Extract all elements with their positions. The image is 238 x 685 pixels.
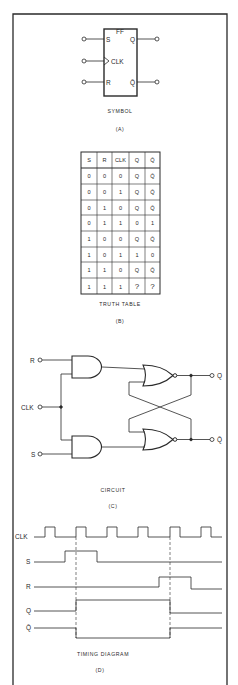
svg-text:0: 0 bbox=[135, 220, 138, 226]
input-terminal-s bbox=[38, 452, 42, 456]
timing-label-clk: CLK bbox=[15, 533, 28, 540]
svg-text:?: ? bbox=[150, 282, 155, 291]
flip-flop-figure: FF S CLK R Q Q̄ SYMBOL (A) S R CLK Q Q̄ … bbox=[0, 0, 238, 685]
ff-label: FF bbox=[116, 28, 124, 35]
timing-label-q: Q bbox=[26, 607, 31, 615]
symbol-letter: (A) bbox=[116, 126, 125, 132]
svg-text:1: 1 bbox=[87, 252, 90, 258]
feedback-wire-b bbox=[129, 376, 191, 433]
circuit-label-r: R bbox=[30, 357, 35, 364]
svg-text:0: 0 bbox=[87, 220, 90, 226]
svg-text:Q̄: Q̄ bbox=[150, 173, 155, 179]
timing-label-qbar: Q̄ bbox=[26, 624, 31, 632]
pin-label-clk: CLK bbox=[111, 58, 124, 65]
timing-label-s: S bbox=[26, 558, 31, 565]
figure-frame bbox=[13, 14, 227, 685]
svg-text:Q: Q bbox=[135, 173, 140, 179]
input-terminal-r bbox=[38, 358, 42, 362]
svg-text:1: 1 bbox=[103, 284, 106, 290]
clock-triangle-icon bbox=[104, 57, 109, 65]
pin-label-qbar: Q̄ bbox=[130, 79, 135, 87]
circuit-caption: CIRCUIT bbox=[100, 487, 125, 493]
input-terminal-s bbox=[82, 37, 86, 41]
circuit-label-clk: CLK bbox=[21, 404, 34, 411]
svg-text:1: 1 bbox=[87, 267, 90, 273]
q-waveform bbox=[34, 600, 222, 613]
nor-bubble-top bbox=[173, 374, 177, 378]
svg-text:S: S bbox=[87, 157, 91, 163]
truth-table-caption: TRUTH TABLE bbox=[99, 301, 141, 307]
nor-bubble-bottom bbox=[173, 438, 177, 442]
svg-text:Q: Q bbox=[135, 236, 140, 242]
svg-text:0: 0 bbox=[87, 173, 90, 179]
svg-text:Q: Q bbox=[135, 157, 140, 163]
svg-text:1: 1 bbox=[87, 236, 90, 242]
output-terminal-q bbox=[155, 37, 159, 41]
qbar-waveform bbox=[34, 628, 222, 638]
output-terminal-qbar bbox=[210, 438, 214, 442]
input-terminal-clk bbox=[82, 59, 86, 63]
svg-text:Q̄: Q̄ bbox=[150, 236, 155, 242]
input-terminal-r bbox=[82, 80, 86, 84]
svg-text:Q̄: Q̄ bbox=[150, 189, 155, 195]
svg-text:Q̄: Q̄ bbox=[150, 157, 155, 163]
svg-text:0: 0 bbox=[151, 252, 154, 258]
circuit-diagram bbox=[38, 356, 214, 458]
svg-text:?: ? bbox=[135, 282, 140, 291]
circuit-label-qbar: Q̄ bbox=[217, 436, 222, 444]
output-terminal-q bbox=[210, 374, 214, 378]
and-gate-bottom bbox=[72, 436, 102, 458]
svg-text:0: 0 bbox=[87, 205, 90, 211]
r-waveform bbox=[34, 577, 222, 589]
timing-letter: (D) bbox=[95, 667, 104, 673]
svg-text:R: R bbox=[102, 157, 106, 163]
svg-text:0: 0 bbox=[103, 189, 106, 195]
circuit-letter: (C) bbox=[108, 503, 117, 509]
svg-text:Q̄: Q̄ bbox=[150, 267, 155, 273]
circuit-label-s: S bbox=[31, 451, 36, 458]
svg-text:1: 1 bbox=[151, 220, 154, 226]
svg-text:0: 0 bbox=[103, 173, 106, 179]
timing-diagram bbox=[34, 527, 222, 638]
svg-text:0: 0 bbox=[87, 189, 90, 195]
clk-waveform bbox=[34, 527, 222, 537]
svg-text:Q: Q bbox=[135, 267, 140, 273]
pin-label-r: R bbox=[106, 79, 111, 86]
input-terminal-clk bbox=[38, 405, 42, 409]
circuit-label-q: Q bbox=[217, 372, 222, 380]
svg-text:Q̄: Q̄ bbox=[150, 205, 155, 211]
svg-text:0: 0 bbox=[119, 173, 122, 179]
svg-text:1: 1 bbox=[135, 252, 138, 258]
and-gate-top bbox=[72, 356, 102, 378]
svg-text:0: 0 bbox=[119, 236, 122, 242]
nor-gate-bottom bbox=[143, 429, 173, 450]
svg-text:1: 1 bbox=[103, 267, 106, 273]
timing-label-r: R bbox=[26, 583, 31, 590]
pin-label-s: S bbox=[106, 36, 111, 43]
svg-text:1: 1 bbox=[119, 220, 122, 226]
truth-table-row: 0 1 1 0 1 bbox=[87, 220, 154, 226]
svg-text:1: 1 bbox=[103, 220, 106, 226]
output-terminal-qbar bbox=[155, 80, 159, 84]
svg-text:Q: Q bbox=[135, 189, 140, 195]
pin-label-q: Q bbox=[130, 36, 135, 44]
svg-text:0: 0 bbox=[119, 205, 122, 211]
svg-text:1: 1 bbox=[119, 284, 122, 290]
svg-text:1: 1 bbox=[103, 205, 106, 211]
nor-gate-top bbox=[143, 365, 173, 386]
truth-table-letter: (B) bbox=[116, 318, 125, 324]
svg-text:Q: Q bbox=[135, 205, 140, 211]
svg-text:0: 0 bbox=[103, 236, 106, 242]
timing-caption: TIMING DIAGRAM bbox=[77, 651, 129, 657]
svg-text:0: 0 bbox=[103, 252, 106, 258]
svg-text:CLK: CLK bbox=[115, 157, 126, 163]
svg-text:1: 1 bbox=[87, 284, 90, 290]
svg-text:1: 1 bbox=[119, 189, 122, 195]
symbol-caption: SYMBOL bbox=[107, 108, 132, 114]
feedback-wire-a bbox=[129, 382, 191, 440]
svg-text:1: 1 bbox=[119, 252, 122, 258]
s-waveform bbox=[34, 551, 222, 562]
truth-table-row: 1 0 1 1 0 bbox=[87, 252, 154, 258]
svg-text:0: 0 bbox=[119, 267, 122, 273]
